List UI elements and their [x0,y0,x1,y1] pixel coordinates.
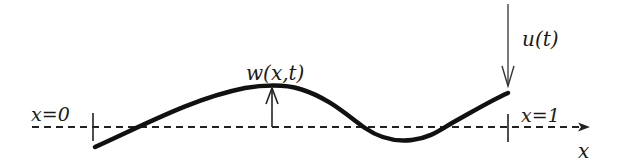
label-deflection: w(x,t) [246,63,304,83]
beam-diagram [0,0,630,166]
label-right-boundary: x=1 [521,106,560,125]
label-axis-x: x [578,141,589,161]
label-input: u(t) [522,29,559,49]
x-axis-arrowhead-icon [578,123,590,132]
label-left-boundary: x=0 [31,105,70,124]
beam-curve [95,86,508,148]
